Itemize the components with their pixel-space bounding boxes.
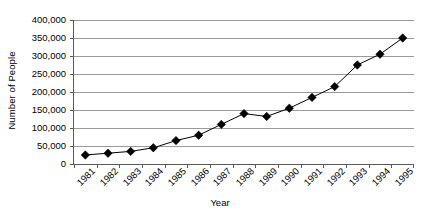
series-line (85, 38, 402, 155)
data-point-marker (126, 147, 134, 155)
x-axis-tick-label: 1991 (302, 166, 324, 188)
y-axis-tick-labels: 050,000100,000150,000200,000250,000300,0… (18, 14, 66, 166)
y-axis-tick-label: 150,000 (18, 105, 66, 115)
y-axis-title-text: Number of People (6, 51, 17, 129)
y-axis-tick-label: 200,000 (18, 87, 66, 97)
y-axis-tick-label: 300,000 (18, 51, 66, 61)
x-axis-tick-label: 1992 (325, 166, 347, 188)
y-axis-tick-label: 0 (18, 159, 66, 169)
x-axis-tick-label: 1988 (234, 166, 256, 188)
data-point-marker (285, 104, 293, 112)
data-point-marker (217, 120, 225, 128)
x-axis-title: Year (0, 197, 440, 208)
x-axis-tick-label: 1983 (121, 166, 143, 188)
data-point-marker (262, 112, 270, 120)
line-chart: Number of People 050,000100,000150,00020… (0, 0, 440, 219)
x-axis-tick-label: 1987 (211, 166, 233, 188)
y-axis-tick-label: 400,000 (18, 15, 66, 25)
data-point-marker (81, 151, 89, 159)
x-axis-tick-label: 1989 (257, 166, 279, 188)
x-axis-tick-label: 1982 (98, 166, 120, 188)
y-axis-tick-label: 100,000 (18, 123, 66, 133)
y-axis-tick-mark (70, 164, 74, 165)
data-series (74, 20, 414, 164)
x-axis-tick-mark (413, 164, 414, 168)
data-point-marker (149, 144, 157, 152)
data-point-marker (172, 136, 180, 144)
x-axis-tick-label: 1994 (370, 166, 392, 188)
x-axis-tick-label: 1995 (393, 166, 415, 188)
plot-area (73, 20, 414, 165)
x-axis-tick-label: 1984 (143, 166, 165, 188)
data-point-marker (398, 34, 406, 42)
data-point-marker (308, 93, 316, 101)
x-axis-tick-label: 1993 (347, 166, 369, 188)
data-point-marker (104, 149, 112, 157)
data-point-marker (240, 109, 248, 117)
x-axis-tick-label: 1990 (279, 166, 301, 188)
data-point-marker (376, 50, 384, 58)
data-point-marker (194, 131, 202, 139)
x-axis-tick-labels: 1981198219831984198519861987198819891990… (73, 166, 413, 200)
y-axis-tick-label: 250,000 (18, 69, 66, 79)
y-axis-tick-label: 350,000 (18, 33, 66, 43)
y-axis-tick-label: 50,000 (18, 141, 66, 151)
x-axis-tick-label: 1986 (189, 166, 211, 188)
x-axis-tick-label: 1985 (166, 166, 188, 188)
x-axis-tick-label: 1981 (75, 166, 97, 188)
